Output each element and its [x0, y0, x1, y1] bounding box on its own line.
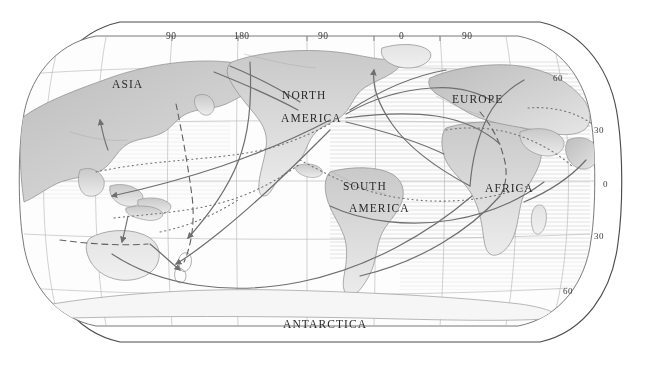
- map-canvas: [0, 0, 651, 365]
- world-map-figure: ASIA NORTH AMERICA EUROPE SOUTH AMERICA …: [0, 0, 651, 365]
